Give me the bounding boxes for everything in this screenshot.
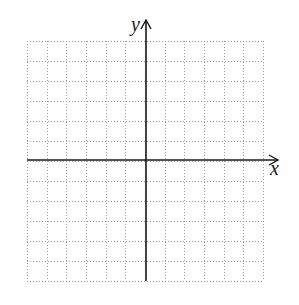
coordinate-plane [0, 0, 299, 305]
y-axis-label: y [131, 14, 140, 34]
x-axis-label: x [270, 158, 279, 178]
